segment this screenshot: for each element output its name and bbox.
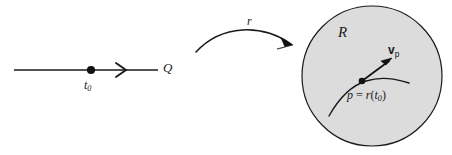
domain-point-dot-icon [87, 66, 95, 74]
map-arrow-label: r [247, 15, 252, 27]
figure-canvas [0, 0, 452, 155]
point-equation-label: p = r(t0) [347, 89, 386, 101]
math-figure: Q t0 r R vp p = r(t0) [0, 0, 452, 155]
velocity-vector-subscript: p [395, 49, 400, 59]
point-equation-parameter-subscript: 0 [378, 94, 382, 103]
domain-label-q: Q [163, 61, 172, 74]
point-equation-equals: = [356, 88, 363, 102]
velocity-vector-label: vp [388, 44, 399, 56]
region-label: R [338, 25, 347, 40]
velocity-vector-symbol: v [388, 43, 395, 57]
domain-point-label: t0 [84, 79, 91, 91]
region-circle [302, 6, 442, 146]
point-equation-close-paren: ) [382, 88, 386, 102]
curved-arrow-path [196, 30, 291, 52]
domain-point-subscript: 0 [87, 84, 91, 93]
